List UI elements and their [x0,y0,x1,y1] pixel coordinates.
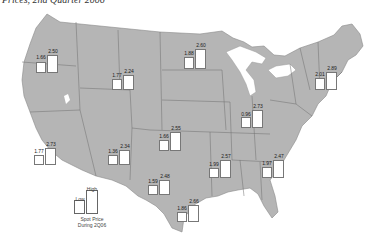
low-value: 0.96 [241,111,251,117]
bar-pair-west-texas: 1.59 2.48 [148,180,170,195]
legend-bars: Low High [74,190,98,214]
legend-caption: Spot Price During 2Q06 [72,216,112,228]
high-bar [47,55,58,73]
bar-pair-southern-plains: 1.66 2.55 [159,132,181,151]
low-bar [108,155,118,165]
high-value: 2.48 [160,173,170,179]
high-bar [252,110,263,128]
low-bar [262,167,272,178]
high-bar [123,75,134,90]
low-value: 1.77 [34,148,44,154]
high-bar [220,160,231,178]
high-bar [45,148,56,165]
legend-high-bar [86,190,98,214]
low-bar [315,78,325,90]
low-bar [241,117,251,128]
high-bar [119,150,130,165]
high-bar [159,180,170,195]
high-value: 2.89 [327,65,337,71]
low-value: 1.59 [148,178,158,184]
high-value: 2.73 [46,141,56,147]
high-value: 2.34 [120,143,130,149]
bar-pair-midwest: 0.96 2.73 [241,110,263,128]
low-bar [112,79,122,90]
high-value: 2.24 [124,68,134,74]
high-value: 2.57 [221,153,231,159]
bar-pair-gulf-coast: 1.86 2.66 [177,205,199,222]
low-value: 2.01 [315,71,325,77]
high-bar [326,72,337,90]
low-bar [34,155,44,165]
low-bar [177,212,187,222]
high-value: 2.66 [189,198,199,204]
high-value: 2.73 [253,103,263,109]
high-bar [273,160,284,178]
legend-high-label: High [87,186,97,192]
low-value: 1.77 [112,72,122,78]
bar-pair-southwest: 1.36 2.34 [108,150,130,165]
legend: Low High Spot Price During 2Q06 [72,186,118,230]
legend-caption-line2: During 2Q06 [72,222,112,228]
low-value: 1.88 [184,50,194,56]
low-value: 1.86 [177,205,187,211]
high-value: 2.55 [171,125,181,131]
high-value: 2.50 [48,48,58,54]
legend-low-bar [74,200,85,214]
high-bar [170,132,181,151]
legend-low-label: Low [75,196,84,202]
high-bar [195,49,206,69]
low-value: 1.97 [262,160,272,166]
bar-pair-northeast: 2.01 2.89 [315,72,337,90]
bar-pair-northern-plains: 1.88 2.60 [184,49,206,69]
low-bar [36,62,46,73]
low-value: 1.66 [159,133,169,139]
high-value: 2.47 [274,153,284,159]
bar-pair-california: 1.77 2.73 [34,148,56,165]
low-bar [184,57,194,69]
low-value: 1.36 [108,148,118,154]
bar-pair-pacific-northwest: 1.66 2.50 [36,55,58,73]
low-bar [159,140,169,151]
low-bar [148,185,158,195]
high-value: 2.60 [196,42,206,48]
low-value: 1.66 [36,54,46,60]
bar-pair-mid-south: 1.99 2.57 [209,160,231,178]
low-value: 1.99 [209,161,219,167]
bar-pair-southeast: 1.97 2.47 [262,160,284,178]
bar-pair-rockies: 1.77 2.24 [112,75,134,90]
low-bar [209,168,219,178]
high-bar [188,205,199,222]
